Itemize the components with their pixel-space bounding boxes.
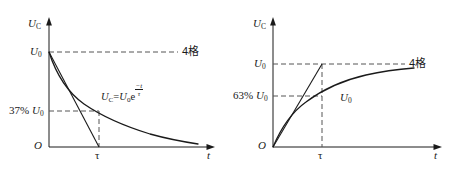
y-axis-label: UC — [253, 18, 266, 31]
initial-tangent-line — [273, 64, 322, 147]
y-axis-arrowhead — [270, 17, 276, 26]
y-axis-arrowhead — [46, 17, 52, 26]
x-axis-label: t — [207, 150, 210, 161]
charge-chart-svg — [232, 0, 464, 174]
charge-chart: UC t O τ U0 63% U0 4格 U0 — [232, 0, 464, 174]
origin-label: O — [258, 140, 266, 151]
grid-count-note: 4格 — [409, 58, 426, 69]
discharge-chart: UC t O τ U0 37% U0 4格 UC=U0e−tτ — [0, 0, 232, 174]
tau-tick-label: τ — [318, 150, 322, 161]
grid-count-note: 4格 — [182, 46, 199, 57]
curve-annotation-label: U0 — [340, 92, 352, 105]
u0-axis-label: U0 — [30, 46, 42, 59]
formula-exponent-fraction: −tτ — [135, 82, 143, 97]
u0-axis-label: U0 — [254, 58, 266, 71]
charge-curve — [273, 68, 414, 147]
origin-label: O — [34, 140, 42, 151]
percent-u0-axis-label: 37% U0 — [9, 105, 44, 118]
initial-tangent-line — [49, 52, 99, 147]
dual-capacitor-curve-figure: UC t O τ U0 37% U0 4格 UC=U0e−tτ — [0, 0, 464, 174]
tau-tick-label: τ — [95, 150, 99, 161]
discharge-formula: UC=U0e−tτ — [101, 82, 143, 104]
percent-u0-axis-label: 63% U0 — [233, 90, 268, 103]
y-axis-label: UC — [28, 18, 41, 31]
x-axis-label: t — [434, 150, 437, 161]
